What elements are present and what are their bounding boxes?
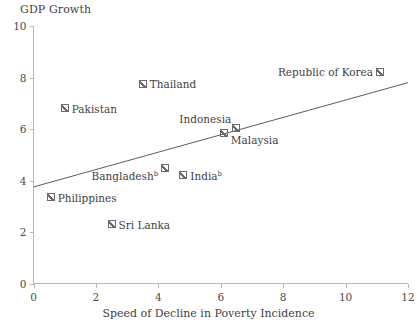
- data-point-label: Bangladeshb: [92, 171, 159, 182]
- data-point-marker[interactable]: [61, 104, 69, 112]
- data-point-marker[interactable]: [47, 193, 55, 201]
- data-point-label: Republic of Korea: [278, 67, 373, 78]
- x-tick-label: 2: [84, 291, 108, 303]
- data-point-label: Pakistan: [72, 104, 117, 115]
- data-point-label: Sri Lanka: [119, 220, 171, 231]
- data-point-marker[interactable]: [179, 171, 187, 179]
- x-tick-label: 6: [209, 291, 233, 303]
- y-tick-label: 0: [5, 278, 27, 290]
- data-point-label: Indiab: [190, 171, 222, 182]
- axes-group: [34, 26, 409, 284]
- data-point-marker[interactable]: [220, 129, 228, 137]
- x-tick-label: 0: [22, 291, 46, 303]
- data-point-label: Thailand: [150, 79, 197, 90]
- y-tick-label: 6: [5, 123, 27, 135]
- x-tick-label: 8: [271, 291, 295, 303]
- data-point-marker[interactable]: [232, 124, 240, 132]
- y-tick-label: 4: [5, 175, 27, 187]
- x-tick-label: 12: [396, 291, 417, 303]
- data-point-marker[interactable]: [108, 220, 116, 228]
- data-point-marker[interactable]: [161, 164, 169, 172]
- data-point-label: Malaysia: [231, 135, 279, 146]
- y-tick-label: 10: [5, 20, 27, 32]
- data-point-label: Indonesia: [179, 114, 231, 125]
- y-tick-label: 8: [5, 72, 27, 84]
- x-axis-title: Speed of Decline in Poverty Incidence: [0, 307, 417, 320]
- x-tick-label: 4: [146, 291, 170, 303]
- data-point-marker[interactable]: [139, 80, 147, 88]
- x-tick-label: 10: [334, 291, 358, 303]
- footnote-marker: b: [154, 169, 158, 177]
- data-point-marker[interactable]: [376, 68, 384, 76]
- plot-canvas: [0, 0, 417, 332]
- chart-container: GDP Growth 0246810 024681012 PakistanTha…: [0, 0, 417, 332]
- data-point-label: Philippines: [58, 193, 117, 204]
- footnote-marker: b: [218, 169, 222, 177]
- y-tick-label: 2: [5, 226, 27, 238]
